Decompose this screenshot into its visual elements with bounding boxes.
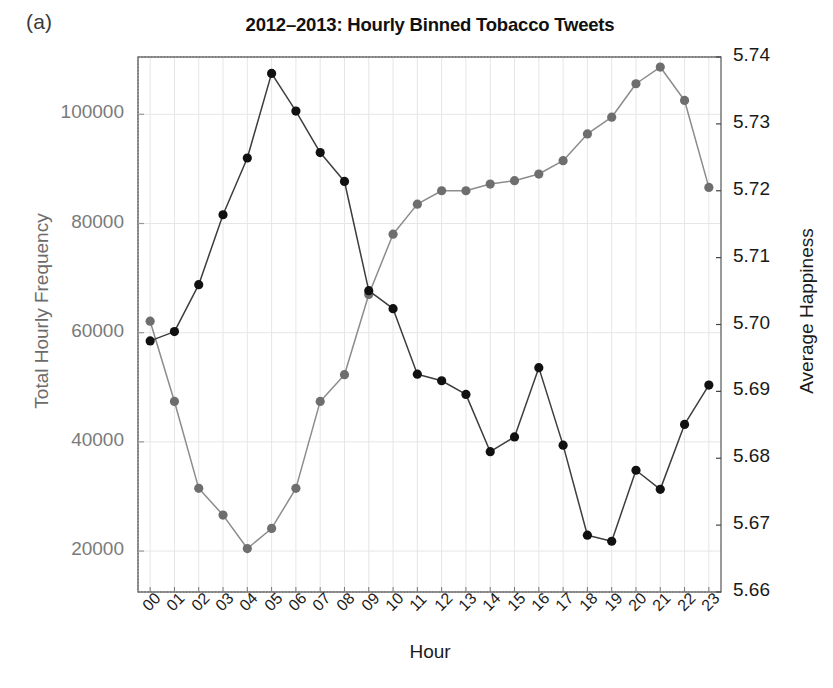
y-tick-label-left: 60000 — [0, 320, 124, 342]
happiness-marker — [461, 186, 470, 195]
y-tick-label-right: 5.66 — [733, 579, 770, 601]
happiness-marker — [316, 397, 325, 406]
y-tick-label-right: 5.68 — [733, 445, 770, 467]
y-tick-label-left: 20000 — [0, 538, 124, 560]
happiness-marker — [680, 96, 689, 105]
frequency-marker — [340, 177, 349, 186]
y-tick-label-right: 5.67 — [733, 512, 770, 534]
happiness-marker — [631, 79, 640, 88]
y-tick-label-right: 5.69 — [733, 378, 770, 400]
frequency-marker — [583, 531, 592, 540]
happiness-line — [150, 67, 709, 549]
happiness-marker — [704, 183, 713, 192]
y-tick-label-right: 5.70 — [733, 312, 770, 334]
happiness-marker — [534, 169, 543, 178]
y-tick-label-right: 5.72 — [733, 178, 770, 200]
happiness-marker — [267, 524, 276, 533]
frequency-marker — [559, 441, 568, 450]
happiness-marker — [607, 113, 616, 122]
happiness-marker — [170, 397, 179, 406]
frequency-marker — [631, 466, 640, 475]
y-tick-label-right: 5.73 — [733, 111, 770, 133]
frequency-marker — [461, 390, 470, 399]
y-tick-label-left: 80000 — [0, 211, 124, 233]
frequency-marker — [656, 485, 665, 494]
happiness-marker — [413, 200, 422, 209]
y-tick-label-left: 40000 — [0, 429, 124, 451]
happiness-marker — [340, 370, 349, 379]
frequency-marker — [267, 69, 276, 78]
frequency-marker — [194, 280, 203, 289]
happiness-marker — [194, 484, 203, 493]
happiness-marker — [146, 317, 155, 326]
happiness-marker — [559, 156, 568, 165]
frequency-marker — [437, 376, 446, 385]
frequency-line — [150, 73, 709, 541]
y-tick-label-right: 5.74 — [733, 44, 770, 66]
frequency-marker — [316, 148, 325, 157]
y-tick-label-left: 100000 — [0, 101, 124, 123]
chart-figure: (a) 2012–2013: Hourly Binned Tobacco Twe… — [0, 0, 833, 688]
frequency-marker — [534, 363, 543, 372]
frequency-marker — [388, 304, 397, 313]
frequency-marker — [413, 370, 422, 379]
frequency-marker — [243, 153, 252, 162]
frequency-marker — [291, 106, 300, 115]
happiness-marker — [437, 186, 446, 195]
frequency-marker — [146, 336, 155, 345]
x-axis-label: Hour — [138, 641, 722, 663]
happiness-marker — [291, 484, 300, 493]
happiness-marker — [656, 62, 665, 71]
frequency-marker — [486, 447, 495, 456]
frequency-marker — [510, 432, 519, 441]
y-tick-label-right: 5.71 — [733, 245, 770, 267]
frequency-marker — [218, 210, 227, 219]
y-axis-label-left: Total Hourly Frequency — [31, 201, 53, 421]
frequency-marker — [364, 286, 373, 295]
plot-canvas — [0, 0, 833, 688]
frequency-marker — [680, 420, 689, 429]
frequency-marker — [607, 537, 616, 546]
happiness-marker — [218, 510, 227, 519]
happiness-marker — [583, 129, 592, 138]
happiness-marker — [486, 179, 495, 188]
happiness-marker — [510, 176, 519, 185]
frequency-marker — [704, 381, 713, 390]
happiness-marker — [388, 230, 397, 239]
y-axis-label-right: Average Happiness — [796, 201, 818, 421]
happiness-marker — [243, 544, 252, 553]
frequency-marker — [170, 327, 179, 336]
